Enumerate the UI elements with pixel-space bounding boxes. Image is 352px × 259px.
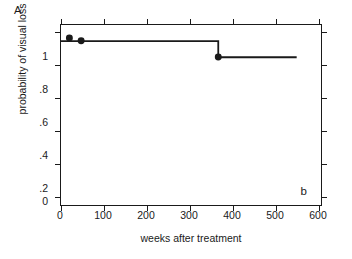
x-axis-tick-labels: 0 100 200 300 400 500 600 xyxy=(60,210,322,226)
y-tick-right-1 xyxy=(321,32,327,33)
x-tick-label-100: 100 xyxy=(94,210,112,221)
censor-marker xyxy=(215,53,222,60)
y-tick-right-06 xyxy=(321,98,327,99)
y-tick-right-04 xyxy=(321,131,327,132)
x-axis-title: weeks after treatment xyxy=(60,232,322,244)
figure-panel-a: A probability of visual loss 1 .8 .6 .4 … xyxy=(0,0,352,259)
x-tick-label-400: 400 xyxy=(223,210,241,221)
censor-marker xyxy=(78,37,85,44)
x-tick-label-500: 500 xyxy=(266,210,284,221)
km-step-line xyxy=(61,41,297,57)
y-tick-right-02 xyxy=(321,164,327,165)
inner-annotation-b: b xyxy=(301,185,307,197)
x-tick-label-600: 600 xyxy=(309,210,327,221)
y-tick-right-0 xyxy=(321,197,327,198)
x-tick-label-200: 200 xyxy=(137,210,155,221)
y-tick-label-0: 0 xyxy=(42,196,48,207)
y-tick-right-08 xyxy=(321,65,327,66)
survival-curve-svg xyxy=(61,25,321,205)
x-tick-label-0: 0 xyxy=(57,210,63,221)
y-axis-zero-label-wrapper: 0 xyxy=(0,24,48,206)
x-tick-label-300: 300 xyxy=(180,210,198,221)
censor-marker xyxy=(66,35,73,42)
plot-area: b xyxy=(60,24,322,206)
censor-marker-group xyxy=(66,35,222,61)
